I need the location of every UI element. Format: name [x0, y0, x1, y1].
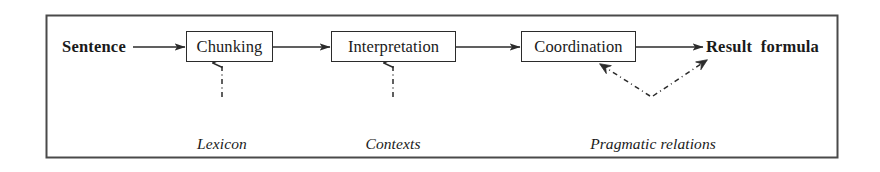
annotation-line: Contexts — [333, 134, 453, 155]
stage-box-coordination[interactable]: Coordination — [521, 31, 636, 62]
stage-label-interpretation: Interpretation — [332, 37, 455, 57]
annotation-interpretation-resources: Contexts — [333, 103, 453, 172]
output-terminal-label: Result formula — [706, 39, 819, 56]
annotation-line: Pragmatic relations — [558, 134, 748, 155]
flow-diagram-figure: Sentence Result formula Chunking Interpr… — [0, 0, 880, 172]
arrow-pragmatics-to-coordination — [600, 64, 650, 96]
stage-label-coordination: Coordination — [522, 37, 635, 57]
annotation-line: Lexicon — [122, 134, 322, 155]
arrow-pragmatics-to-result — [653, 60, 707, 96]
stage-box-interpretation[interactable]: Interpretation — [331, 31, 456, 62]
input-terminal-label: Sentence — [62, 39, 126, 56]
stage-box-chunking[interactable]: Chunking — [186, 31, 273, 62]
stage-label-chunking: Chunking — [187, 37, 272, 57]
annotation-coordination-resources: Pragmatic relations Contexts — [558, 103, 748, 172]
annotation-chunking-resources: Lexicon Syntactic categories — [122, 103, 322, 172]
